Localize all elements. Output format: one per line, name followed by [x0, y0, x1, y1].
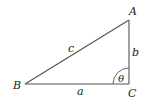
vertex-label-a: A — [128, 5, 137, 18]
triangle-diagram: A B C a b c θ — [0, 0, 146, 100]
vertex-label-c: C — [128, 87, 137, 100]
vertex-label-b: B — [12, 79, 21, 92]
angle-label-theta: θ — [118, 73, 124, 84]
side-c — [25, 20, 129, 84]
side-label-a: a — [77, 85, 84, 98]
side-label-c: c — [68, 42, 74, 55]
side-label-b: b — [132, 46, 139, 59]
